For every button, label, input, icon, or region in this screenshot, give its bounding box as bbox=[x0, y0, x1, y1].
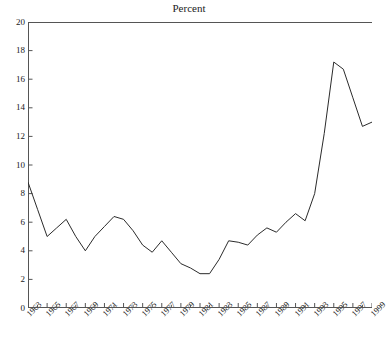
line-chart-svg bbox=[28, 22, 372, 308]
axis-ticks bbox=[28, 22, 372, 308]
axes bbox=[28, 22, 372, 308]
plot-area bbox=[28, 22, 372, 308]
data-series-line bbox=[28, 62, 372, 274]
